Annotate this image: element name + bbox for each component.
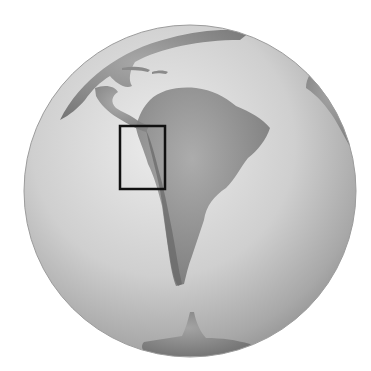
globe-map (0, 0, 371, 371)
